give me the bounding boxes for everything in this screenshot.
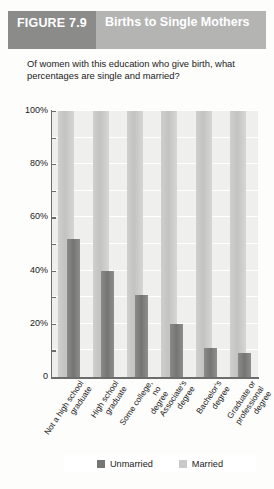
chart-legend: UnmarriedMarried (64, 455, 256, 472)
y-tick-mark (52, 111, 56, 112)
y-tick-mark (52, 350, 56, 351)
chart-plot-area (52, 111, 258, 377)
x-axis-labels: Not a high schoolgraduateHigh schoolgrad… (0, 379, 274, 449)
bar-unmarried (170, 324, 183, 377)
legend-swatch-married (179, 460, 187, 468)
legend-swatch-unmarried (97, 460, 105, 468)
bar-unmarried (204, 348, 217, 377)
y-tick-mark (52, 377, 56, 378)
y-tick-mark (52, 324, 56, 325)
y-tick-mark (52, 164, 56, 165)
y-tick-label: 100% (2, 105, 48, 115)
chart-bars (52, 111, 258, 377)
legend-label: Unmarried (110, 459, 153, 469)
legend-label: Married (192, 459, 223, 469)
figure-subtitle: Of women with this education who give bi… (27, 58, 252, 82)
figure-title: Births to Single Mothers (96, 11, 249, 30)
bar-unmarried (238, 353, 251, 377)
y-tick-label: 80% (2, 158, 48, 168)
x-axis-label: Not a high schoolgraduate (43, 379, 94, 442)
y-tick-mark (52, 271, 56, 272)
legend-item[interactable]: Unmarried (97, 459, 153, 469)
bar-unmarried (101, 271, 114, 377)
y-tick-label: 40% (2, 265, 48, 275)
y-tick-mark (52, 217, 56, 218)
bar-unmarried (135, 295, 148, 377)
figure-container: FIGURE 7.9 Births to Single Mothers Of w… (0, 0, 274, 489)
bar-unmarried (67, 239, 80, 377)
bar-married (230, 111, 246, 377)
legend-item[interactable]: Married (179, 459, 223, 469)
bar-married (196, 111, 212, 377)
y-tick-mark (52, 191, 56, 192)
y-tick-mark (52, 297, 56, 298)
x-axis-label: Graduate orprofessionaldegree (225, 379, 274, 432)
y-tick-label: 60% (2, 211, 48, 221)
y-tick-mark (52, 138, 56, 139)
y-tick-label: 20% (2, 318, 48, 328)
y-tick-mark (52, 244, 56, 245)
